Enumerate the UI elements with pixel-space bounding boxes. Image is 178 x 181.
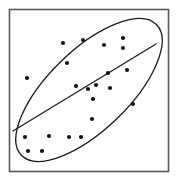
data-point [26,149,30,153]
data-point [40,149,44,153]
data-point [121,36,125,40]
data-point [131,102,135,106]
scatter-plot-figure [0,0,178,181]
data-point [90,117,94,121]
data-point [47,134,51,138]
data-point [106,71,110,75]
data-point [125,68,129,72]
data-point [81,38,85,42]
data-point [102,43,106,47]
data-point [94,83,98,87]
data-point [86,87,90,91]
data-point [121,46,125,50]
data-point [65,61,69,65]
plot-canvas [0,0,178,181]
data-point [108,86,112,90]
data-point [25,76,29,80]
data-point [91,97,95,101]
data-point [23,135,27,139]
data-point [61,41,65,45]
data-point [74,84,78,88]
data-point [79,135,83,139]
data-point [67,135,71,139]
